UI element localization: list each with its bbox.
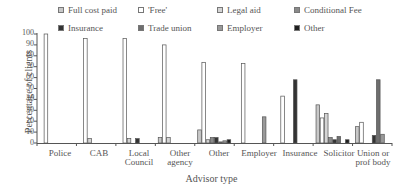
bar-full-cost-paid-union-or-prof-body: [355, 127, 359, 143]
bar-employer-union-or-prof-body: [381, 134, 385, 143]
bar-insurance-solicitor: [333, 140, 337, 143]
bar-trade-union-solicitor: [337, 136, 341, 143]
bar-trade-union-other: [219, 142, 223, 143]
bar--free--other: [202, 62, 206, 143]
bar-full-cost-paid-other: [198, 130, 202, 143]
bar-insurance-local-council: [136, 139, 140, 143]
x-tick-label-union: Union orprof body: [351, 149, 393, 167]
bar-full-cost-paid-other-agency: [158, 138, 162, 143]
bar--free--solicitor: [320, 118, 324, 143]
bar-employer-other: [223, 141, 227, 143]
bar-other-solicitor: [345, 140, 349, 143]
x-tick-label-other: Other: [197, 149, 241, 158]
bar-trade-union-union-or-prof-body: [376, 80, 380, 143]
bar-legal-aid-cab: [88, 139, 92, 143]
bar-employer-employer: [262, 117, 266, 143]
x-tick-label-insurance: Insurance: [278, 149, 322, 158]
bar--free--insurance: [281, 96, 285, 143]
bar-insurance-other: [215, 138, 219, 143]
bar-full-cost-paid-solicitor: [316, 105, 320, 143]
x-tick-label-other-agency: Otheragency: [158, 149, 202, 167]
bar-insurance-union-or-prof-body: [372, 135, 376, 143]
bar--free--union-or-prof-body: [360, 122, 364, 143]
bar--free--other-agency: [162, 45, 166, 143]
bar--free--cab: [84, 38, 88, 143]
bar-legal-aid-other-agency: [167, 138, 171, 143]
bar--free--employer: [241, 63, 245, 143]
x-tick-label-employer: Employer: [237, 149, 281, 158]
x-tick-label-local-council: LocalCouncil: [117, 149, 161, 167]
bar-legal-aid-local-council: [127, 139, 131, 143]
bar-legal-aid-solicitor: [324, 114, 328, 143]
x-axis-title: Advisor type: [0, 173, 393, 184]
bar-legal-aid-other: [206, 140, 210, 143]
x-tick-label-cab: CAB: [77, 149, 121, 158]
bar-conditional-fee-other: [210, 138, 214, 143]
x-tick-label-police: Police: [38, 149, 82, 158]
bar-conditional-fee-solicitor: [329, 138, 333, 143]
bar-insurance-insurance: [293, 80, 297, 143]
bar--free--local-council: [123, 38, 127, 143]
bar--free--police: [44, 34, 48, 143]
bar-other-other: [227, 140, 231, 143]
